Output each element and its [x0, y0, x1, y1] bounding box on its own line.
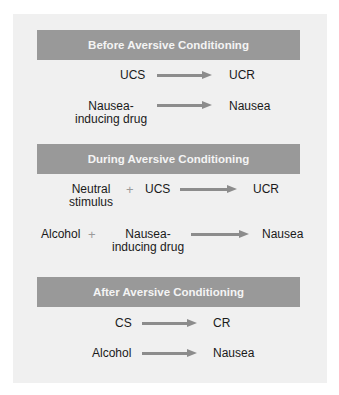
section-title: Before Aversive Conditioning: [88, 39, 249, 51]
arrow-icon: [157, 101, 212, 110]
arrow-icon: [180, 185, 237, 194]
arrow-icon: [157, 71, 212, 80]
nausea-drug-label: Nausea- inducing drug: [75, 100, 147, 126]
nausea-label: Nausea: [229, 100, 270, 113]
section-header-before: Before Aversive Conditioning: [37, 30, 300, 60]
arrow-icon: [142, 319, 197, 328]
arrow-icon: [142, 349, 197, 358]
plus-icon: +: [126, 183, 134, 196]
alcohol-label: Alcohol: [92, 347, 131, 360]
ucs-label: UCS: [120, 69, 145, 82]
ucr-label: UCR: [253, 183, 279, 196]
cs-label: CS: [115, 317, 132, 330]
plus-icon: +: [88, 228, 96, 241]
ucr-label: UCR: [229, 69, 255, 82]
ucs-label: UCS: [145, 183, 170, 196]
arrow-icon: [191, 230, 249, 239]
section-header-after: After Aversive Conditioning: [37, 277, 300, 307]
nausea-label: Nausea: [262, 228, 303, 241]
neutral-stimulus-label: Neutral stimulus: [69, 183, 113, 209]
nausea-drug-label: Nausea- inducing drug: [112, 228, 184, 254]
cr-label: CR: [213, 317, 230, 330]
section-header-during: During Aversive Conditioning: [37, 144, 300, 174]
section-title: After Aversive Conditioning: [93, 286, 244, 298]
section-title: During Aversive Conditioning: [88, 153, 249, 165]
alcohol-label: Alcohol: [41, 228, 80, 241]
nausea-label: Nausea: [213, 347, 254, 360]
